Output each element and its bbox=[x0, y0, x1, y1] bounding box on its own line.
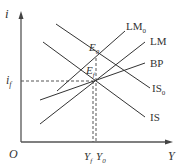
y-f-label: Yf bbox=[84, 150, 93, 165]
is-lm-bp-diagram: i Y O if Yf Y0 E0 Ef LM0 LM BP IS0 IS bbox=[0, 0, 181, 167]
x-axis-label: Y bbox=[168, 149, 176, 163]
origin-label: O bbox=[9, 147, 18, 161]
e0-label: E0 bbox=[88, 41, 100, 56]
is-curve bbox=[43, 42, 145, 117]
is0-curve bbox=[56, 24, 150, 88]
y-0-label: Y0 bbox=[96, 150, 106, 165]
lm0-label: LM0 bbox=[126, 20, 147, 35]
y-axis-arrow-icon bbox=[19, 11, 24, 19]
x-axis-arrow-icon bbox=[165, 140, 173, 145]
i-f-label: if bbox=[6, 73, 13, 89]
y-axis-label: i bbox=[5, 6, 9, 21]
is0-label: IS0 bbox=[152, 82, 166, 97]
lm-label: LM bbox=[150, 35, 167, 47]
is-label: IS bbox=[150, 111, 160, 123]
bp-label: BP bbox=[150, 57, 163, 69]
